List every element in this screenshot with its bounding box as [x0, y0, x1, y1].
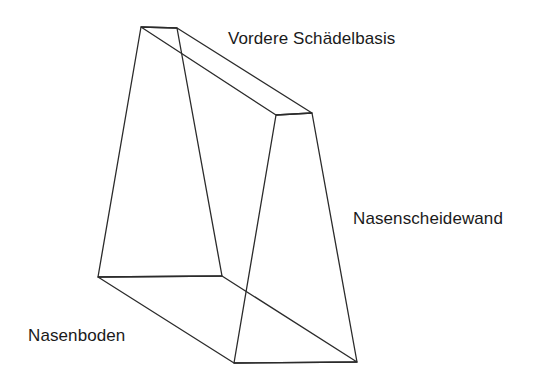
- face-right-side: [234, 113, 357, 363]
- diagram-canvas: Vordere Schädelbasis Nasenscheidewand Na…: [0, 0, 551, 386]
- face-floor: [98, 276, 357, 363]
- figure-faces: [98, 27, 357, 363]
- label-vordere-schaedelbasis: Vordere Schädelbasis: [228, 30, 395, 49]
- label-nasenscheidewand: Nasenscheidewand: [353, 210, 503, 229]
- label-nasenboden: Nasenboden: [28, 327, 125, 346]
- face-front-left: [98, 27, 222, 277]
